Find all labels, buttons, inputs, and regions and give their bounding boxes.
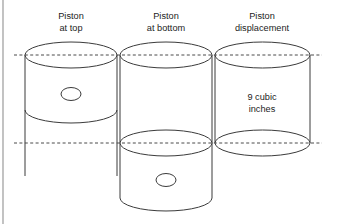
cylinder-piston-at-bottom [120,42,212,211]
displacement-volume-label-line2: inches [249,104,276,114]
caption-piston-at-top-line1: Piston [58,11,84,21]
caption-piston-at-top-line2: at top [60,23,83,33]
caption-piston-displacement-line1: Piston [249,11,275,21]
piston-bottom-front-arc [25,110,117,123]
displacement-volume-label-line1: 9 cubic [247,92,277,102]
cylinder-piston-at-top [25,42,117,176]
piston-pin-hole [156,174,176,187]
caption-piston-at-bottom-line1: Piston [153,11,179,21]
piston-displacement-figure: Piston at top Piston at bottom Piston di… [0,0,337,224]
diagram-canvas: Piston at top Piston at bottom Piston di… [0,0,337,224]
piston-pin-hole [61,88,81,101]
caption-piston-displacement-line2: displacement [235,23,290,33]
caption-piston-at-bottom-line2: at bottom [147,23,186,33]
cylinder-bottom-front-arc [120,198,212,211]
